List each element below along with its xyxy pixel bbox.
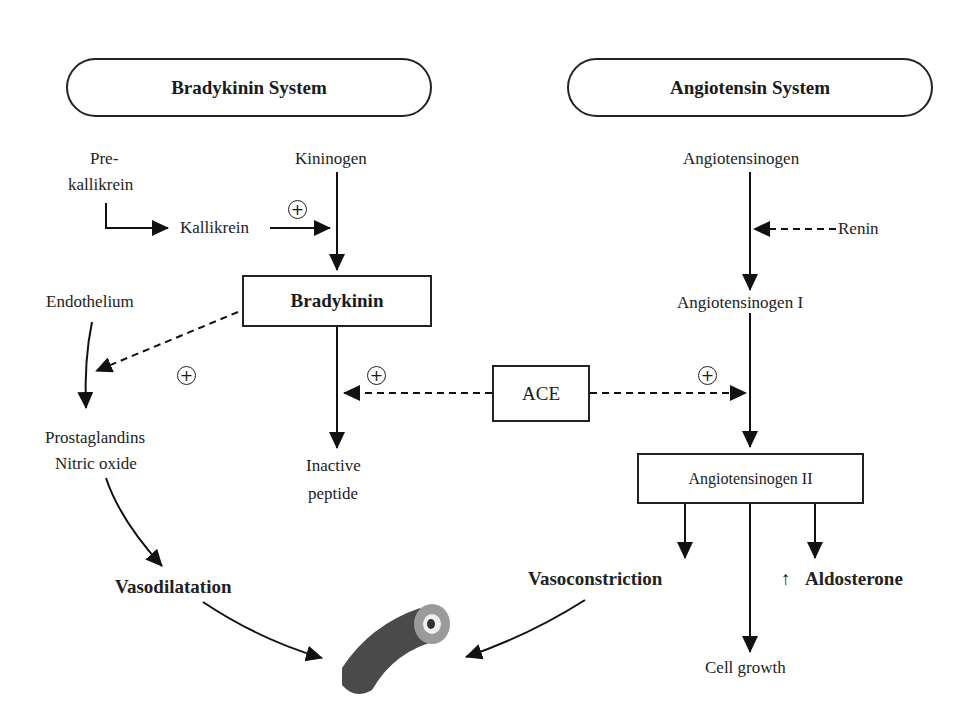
- renin-label: Renin: [838, 217, 879, 241]
- angiotensin-system-title: Angiotensin System: [670, 77, 830, 99]
- peptide-label: peptide: [308, 482, 358, 506]
- plus-icon: +: [177, 366, 196, 385]
- angiotensinogen-i-label: Angiotensinogen I: [677, 291, 803, 315]
- inactive-label: Inactive: [306, 454, 361, 478]
- aldosterone-label: Aldosterone: [805, 567, 903, 591]
- prekallikrein-label-2: kallikrein: [68, 173, 133, 197]
- bradykinin-label: Bradykinin: [291, 290, 384, 312]
- kininogen-label: Kininogen: [295, 147, 367, 171]
- angiotensinogen-ii-box: Angiotensinogen II: [637, 453, 864, 504]
- bradykinin-system-header: Bradykinin System: [66, 58, 432, 117]
- plus-icon: +: [288, 200, 307, 219]
- plus-icon: +: [367, 366, 386, 385]
- prekallikrein-label-1: Pre-: [90, 147, 118, 171]
- arrow-endothelium-prostaglandins: [86, 322, 92, 408]
- arrow-bradykinin-endothelium: [96, 312, 238, 371]
- vasodilatation-label: Vasodilatation: [115, 575, 232, 599]
- bradykinin-system-title: Bradykinin System: [171, 77, 327, 99]
- arrow-vasodilatation-vessel: [203, 602, 322, 658]
- cell-growth-label: Cell growth: [705, 656, 786, 680]
- angiotensinogen-ii-label: Angiotensinogen II: [689, 470, 813, 488]
- angiotensin-system-header: Angiotensin System: [567, 58, 933, 117]
- endothelium-label: Endothelium: [46, 290, 134, 314]
- angiotensinogen-label: Angiotensinogen: [683, 147, 799, 171]
- bradykinin-box: Bradykinin: [242, 275, 432, 327]
- plus-icon: +: [698, 366, 717, 385]
- ace-box: ACE: [492, 365, 590, 422]
- prostaglandins-label: Prostaglandins: [45, 426, 145, 450]
- arrow-no-vasodilatation: [106, 478, 162, 566]
- arrow-prekallikrein-kallikrein: [106, 203, 168, 228]
- kallikrein-label: Kallikrein: [180, 216, 249, 240]
- aldosterone-up-arrow-icon: ↑: [781, 567, 791, 591]
- ace-label: ACE: [522, 383, 560, 405]
- blood-vessel-icon: [342, 604, 450, 694]
- nitric-oxide-label: Nitric oxide: [55, 452, 137, 476]
- arrow-vasoconstriction-vessel: [466, 600, 585, 657]
- vasoconstriction-label: Vasoconstriction: [528, 567, 662, 591]
